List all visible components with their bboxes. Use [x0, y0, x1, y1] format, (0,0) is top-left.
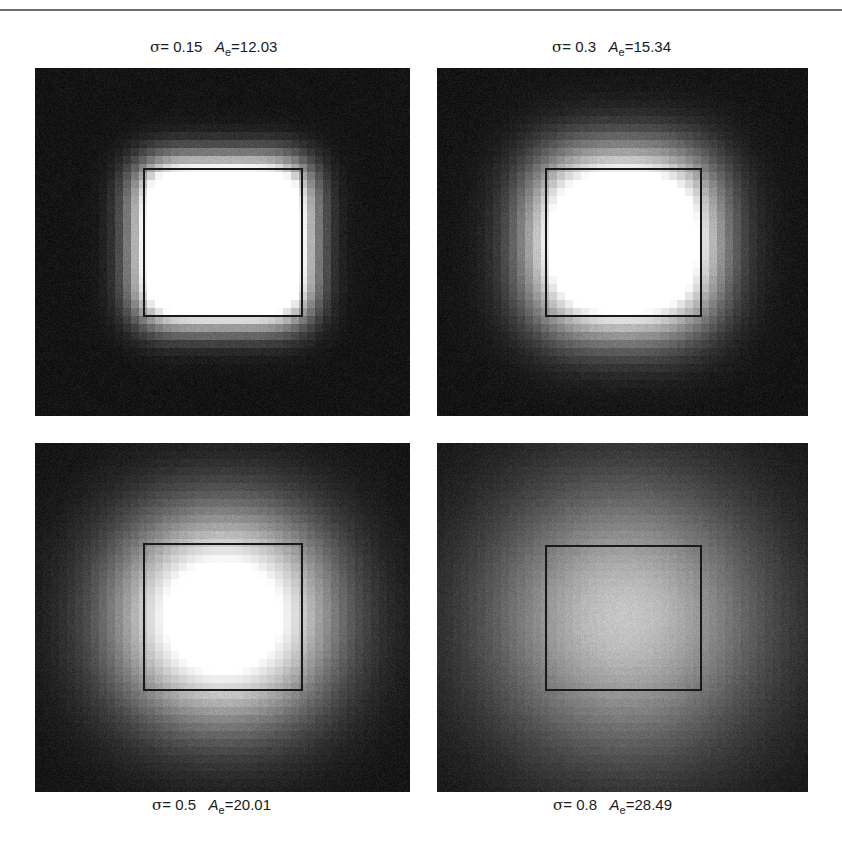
caption-panel-4: σ= 0.8 Ae=28.49 — [553, 796, 672, 816]
ae-value: =15.34 — [625, 38, 671, 55]
sigma-value: = 0.5 — [162, 796, 196, 813]
caption-panel-3: σ= 0.5 Ae=20.01 — [152, 796, 271, 816]
caption-panel-2: σ= 0.3 Ae=15.34 — [552, 38, 671, 58]
sigma-symbol: σ — [552, 38, 562, 56]
top-rule — [0, 9, 842, 11]
square-outline — [545, 545, 702, 691]
blur-panel-sigma-0.5 — [35, 443, 410, 792]
blur-panel-sigma-0.8 — [437, 443, 808, 792]
square-outline — [143, 543, 303, 691]
ae-symbol: A — [609, 38, 619, 55]
sigma-symbol: σ — [553, 796, 563, 814]
sigma-symbol: σ — [150, 38, 160, 56]
ae-symbol: A — [209, 796, 219, 813]
sigma-symbol: σ — [152, 796, 162, 814]
ae-value: =12.03 — [231, 38, 277, 55]
square-outline — [545, 168, 702, 317]
ae-value: =28.49 — [626, 796, 672, 813]
square-outline — [143, 168, 303, 317]
caption-panel-1: σ= 0.15 Ae=12.03 — [150, 38, 277, 58]
ae-symbol: A — [610, 796, 620, 813]
sigma-value: = 0.15 — [160, 38, 202, 55]
ae-symbol: A — [215, 38, 225, 55]
blur-panel-sigma-0.15 — [35, 68, 410, 416]
blur-panel-sigma-0.3 — [437, 68, 808, 416]
sigma-value: = 0.3 — [562, 38, 596, 55]
sigma-value: = 0.8 — [563, 796, 597, 813]
ae-value: =20.01 — [225, 796, 271, 813]
